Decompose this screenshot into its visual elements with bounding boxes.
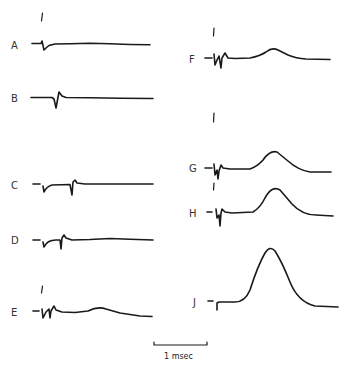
trace-f	[214, 49, 330, 68]
trace-figure: A B C D E F G H J 1 msec	[0, 0, 350, 375]
stimulus-marker-f	[214, 28, 215, 36]
stimulus-marker-g	[214, 113, 215, 122]
stimulus-marker-a	[42, 13, 43, 21]
panel-label-a: A	[11, 40, 18, 51]
panel-label-b: B	[11, 93, 18, 104]
trace-c	[43, 180, 153, 195]
panel-label-d: D	[11, 235, 19, 246]
stimulus-marker-e	[42, 286, 43, 293]
panel-label-h: H	[189, 208, 197, 219]
trace-g	[214, 152, 331, 179]
panel-label-e: E	[11, 307, 17, 318]
trace-j	[217, 248, 338, 310]
panel-label-j: J	[192, 297, 196, 308]
panel-label-g: G	[189, 163, 197, 174]
panel-label-c: C	[11, 180, 18, 191]
trace-h	[216, 189, 333, 226]
panel-label-f: F	[189, 54, 195, 65]
stimulus-marker-h	[214, 183, 215, 190]
scale-bar	[154, 342, 207, 345]
scale-bar-label: 1 msec	[164, 352, 193, 361]
trace-d	[43, 235, 153, 249]
trace-e	[42, 306, 152, 318]
trace-b	[31, 92, 153, 108]
trace-a	[32, 41, 150, 50]
